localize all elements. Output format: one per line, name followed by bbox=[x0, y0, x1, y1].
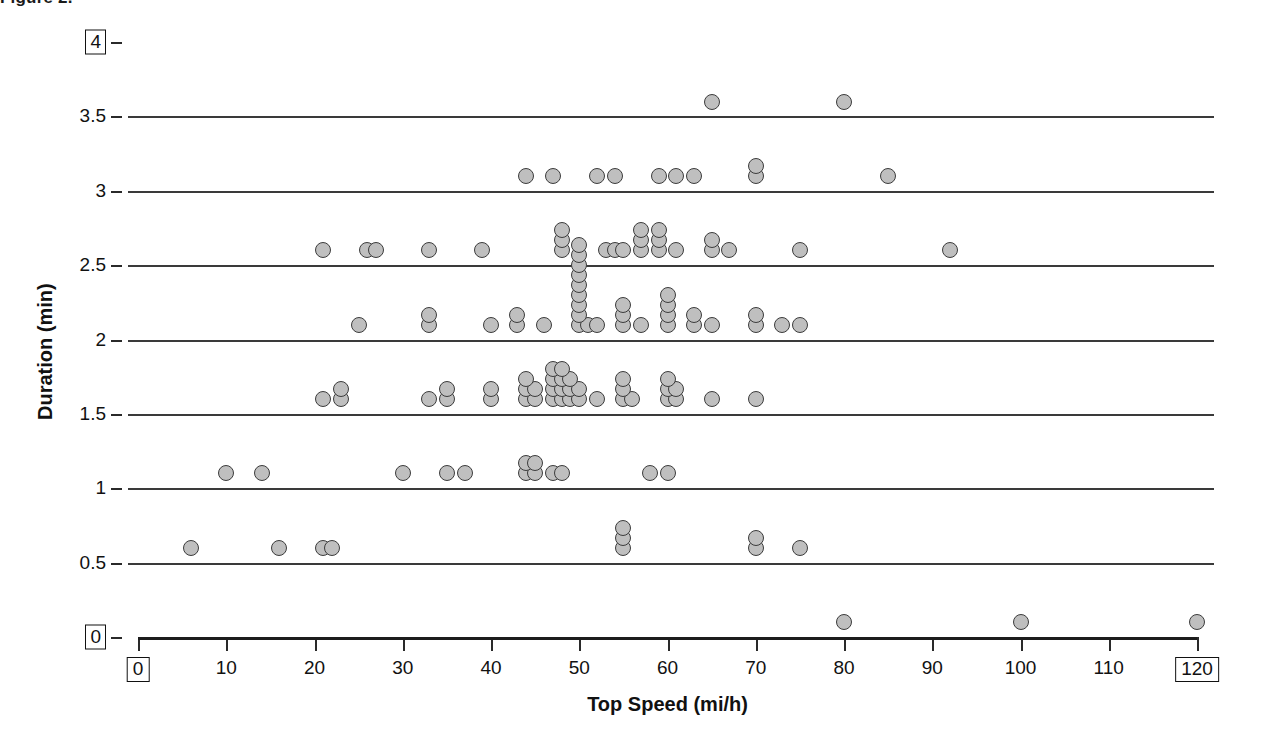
data-point bbox=[271, 540, 287, 556]
data-point bbox=[509, 307, 525, 323]
data-point bbox=[351, 317, 367, 333]
data-point bbox=[686, 307, 702, 323]
data-point bbox=[615, 520, 631, 536]
data-point bbox=[880, 168, 896, 184]
y-tick-dash bbox=[111, 637, 122, 639]
gridline bbox=[128, 563, 1214, 565]
x-tick-label: 80 bbox=[833, 657, 854, 679]
data-point bbox=[704, 232, 720, 248]
data-point bbox=[1189, 614, 1205, 630]
x-tick-label: 110 bbox=[1094, 657, 1124, 679]
data-point bbox=[483, 381, 499, 397]
data-point bbox=[642, 465, 658, 481]
data-point bbox=[704, 94, 720, 110]
y-tick-label: 2.5 bbox=[80, 254, 106, 276]
x-axis-line bbox=[138, 637, 1197, 640]
y-tick-label: 4 bbox=[85, 30, 106, 55]
x-tick-label: 120 bbox=[1175, 657, 1219, 682]
data-point bbox=[704, 391, 720, 407]
data-point bbox=[483, 317, 499, 333]
data-point bbox=[368, 242, 384, 258]
gridline bbox=[128, 488, 1214, 490]
data-point bbox=[748, 307, 764, 323]
data-point bbox=[439, 381, 455, 397]
y-tick-dash bbox=[111, 191, 122, 193]
data-point bbox=[633, 317, 649, 333]
data-point bbox=[554, 361, 570, 377]
y-tick-dash bbox=[111, 116, 122, 118]
data-point bbox=[589, 317, 605, 333]
data-point bbox=[651, 222, 667, 238]
data-point bbox=[836, 614, 852, 630]
x-tick-label: 40 bbox=[480, 657, 501, 679]
data-point bbox=[1013, 614, 1029, 630]
y-tick-dash bbox=[111, 42, 122, 44]
y-tick-dash bbox=[111, 488, 122, 490]
data-point bbox=[660, 287, 676, 303]
data-point bbox=[615, 297, 631, 313]
data-point bbox=[668, 168, 684, 184]
gridline bbox=[128, 340, 1214, 342]
data-point bbox=[218, 465, 234, 481]
data-point bbox=[333, 381, 349, 397]
data-point bbox=[554, 465, 570, 481]
data-point bbox=[589, 168, 605, 184]
x-axis-title: Top Speed (mi/h) bbox=[587, 693, 748, 716]
data-point bbox=[183, 540, 199, 556]
y-tick-dash bbox=[111, 563, 122, 565]
y-tick-label: 3.5 bbox=[80, 105, 106, 127]
gridline bbox=[128, 414, 1214, 416]
x-tick-label: 0 bbox=[127, 657, 150, 682]
data-point bbox=[704, 317, 720, 333]
data-point bbox=[421, 391, 437, 407]
data-point bbox=[774, 317, 790, 333]
x-tick-label: 60 bbox=[657, 657, 678, 679]
data-point bbox=[315, 391, 331, 407]
data-point bbox=[792, 540, 808, 556]
data-point bbox=[615, 242, 631, 258]
data-point bbox=[942, 242, 958, 258]
data-point bbox=[792, 317, 808, 333]
data-point bbox=[324, 540, 340, 556]
y-tick-dash bbox=[111, 265, 122, 267]
y-tick-label: 1.5 bbox=[80, 403, 106, 425]
data-point bbox=[395, 465, 411, 481]
y-tick-dash bbox=[111, 340, 122, 342]
x-tick-label: 70 bbox=[745, 657, 766, 679]
data-point bbox=[254, 465, 270, 481]
data-point bbox=[668, 242, 684, 258]
data-point bbox=[748, 158, 764, 174]
data-point bbox=[660, 465, 676, 481]
y-tick-label: 3 bbox=[95, 180, 106, 202]
y-tick-label: 0 bbox=[85, 625, 106, 650]
x-tick-label: 20 bbox=[304, 657, 325, 679]
data-point bbox=[607, 168, 623, 184]
data-point bbox=[686, 168, 702, 184]
y-tick-dash bbox=[111, 414, 122, 416]
data-point bbox=[721, 242, 737, 258]
data-point bbox=[421, 307, 437, 323]
data-point bbox=[545, 168, 561, 184]
figure-container: Figure 2. 00.511.522.533.54 010203040506… bbox=[0, 0, 1274, 756]
data-point bbox=[792, 242, 808, 258]
data-point bbox=[527, 455, 543, 471]
data-point bbox=[660, 371, 676, 387]
data-point bbox=[589, 391, 605, 407]
data-point bbox=[518, 371, 534, 387]
data-point bbox=[315, 242, 331, 258]
data-point bbox=[536, 317, 552, 333]
data-point bbox=[748, 530, 764, 546]
gridline bbox=[128, 265, 1214, 267]
y-tick-label: 0.5 bbox=[80, 552, 106, 574]
gridline bbox=[128, 191, 1214, 193]
x-tick-label: 90 bbox=[922, 657, 943, 679]
data-point bbox=[651, 168, 667, 184]
data-point bbox=[474, 242, 490, 258]
data-point bbox=[439, 465, 455, 481]
y-axis-title: Duration (min) bbox=[34, 283, 57, 420]
data-point bbox=[633, 222, 649, 238]
x-tick-label: 30 bbox=[392, 657, 413, 679]
data-point bbox=[748, 391, 764, 407]
data-point bbox=[457, 465, 473, 481]
x-tick-label: 100 bbox=[1005, 657, 1037, 679]
